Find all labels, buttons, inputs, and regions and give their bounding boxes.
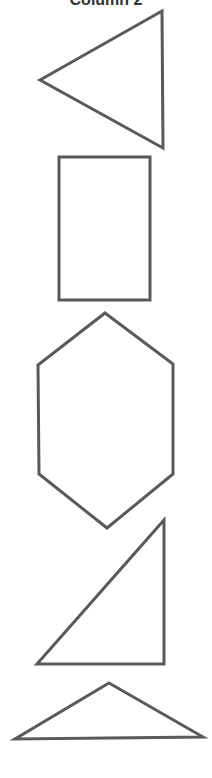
rectangle [59,157,150,300]
left-pointing-triangle [40,11,163,148]
shapes-canvas [0,0,212,778]
obtuse-triangle [15,683,203,739]
right-triangle [37,520,164,664]
hexagon [38,313,173,528]
